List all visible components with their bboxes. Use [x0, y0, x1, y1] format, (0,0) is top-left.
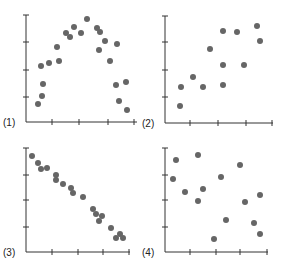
data-point — [38, 63, 44, 69]
data-point — [195, 198, 201, 204]
data-point — [170, 176, 176, 182]
data-point — [257, 38, 263, 44]
data-point — [220, 62, 226, 68]
data-point — [223, 217, 229, 223]
panel-4-label: (4) — [142, 247, 154, 258]
data-point — [190, 74, 196, 80]
data-point — [99, 213, 105, 219]
data-point — [39, 93, 45, 99]
data-point — [102, 38, 108, 44]
data-point — [173, 157, 179, 163]
data-point — [40, 81, 46, 87]
data-point — [35, 101, 41, 107]
data-point — [53, 177, 59, 183]
data-point — [67, 34, 73, 40]
data-point — [207, 46, 213, 52]
panel-3-scatter: (3) — [3, 148, 130, 258]
data-point — [120, 235, 126, 241]
panel-3-label: (3) — [3, 247, 15, 258]
data-point — [218, 174, 224, 180]
data-point — [257, 231, 263, 237]
data-point — [200, 186, 206, 192]
data-point — [29, 153, 35, 159]
data-point — [241, 62, 247, 68]
panel-1-points — [35, 16, 130, 113]
data-point — [200, 84, 206, 90]
data-point — [96, 218, 102, 224]
data-point — [177, 103, 183, 109]
data-point — [195, 152, 201, 158]
data-point — [237, 162, 243, 168]
data-point — [93, 211, 99, 217]
data-point — [257, 192, 263, 198]
data-point — [46, 60, 52, 66]
data-point — [113, 235, 119, 241]
data-point — [211, 236, 217, 242]
panel-2-axes — [162, 16, 273, 126]
data-point — [38, 166, 44, 172]
data-point — [107, 58, 113, 64]
scatterplot-grid: (1) (2) (3) (4) — [0, 0, 281, 266]
data-point — [220, 82, 226, 88]
data-point — [71, 24, 77, 30]
panel-1-scatter: (1) — [3, 15, 137, 128]
data-point — [97, 29, 103, 35]
data-point — [70, 190, 76, 196]
panel-2-label: (2) — [142, 118, 154, 129]
panel-4-scatter: (4) — [142, 148, 268, 258]
data-point — [123, 79, 129, 85]
data-point — [54, 44, 60, 50]
data-point — [113, 82, 119, 88]
data-point — [234, 29, 240, 35]
panel-2-points — [177, 23, 263, 109]
data-point — [254, 23, 260, 29]
data-point — [80, 194, 86, 200]
data-point — [84, 16, 90, 22]
panel-1-label: (1) — [3, 117, 15, 128]
data-point — [44, 165, 50, 171]
data-point — [124, 107, 130, 113]
data-point — [220, 28, 226, 34]
panel-2-scatter: (2) — [142, 16, 273, 129]
data-point — [116, 98, 122, 104]
data-point — [182, 189, 188, 195]
data-point — [114, 41, 120, 47]
data-point — [35, 160, 41, 166]
data-point — [60, 181, 66, 187]
data-point — [56, 58, 62, 64]
data-point — [251, 220, 257, 226]
data-point — [90, 206, 96, 212]
panel-4-points — [170, 152, 263, 242]
panel-3-points — [29, 153, 126, 241]
data-point — [96, 47, 102, 53]
data-point — [108, 225, 114, 231]
data-point — [78, 30, 84, 36]
data-point — [242, 199, 248, 205]
data-point — [178, 84, 184, 90]
